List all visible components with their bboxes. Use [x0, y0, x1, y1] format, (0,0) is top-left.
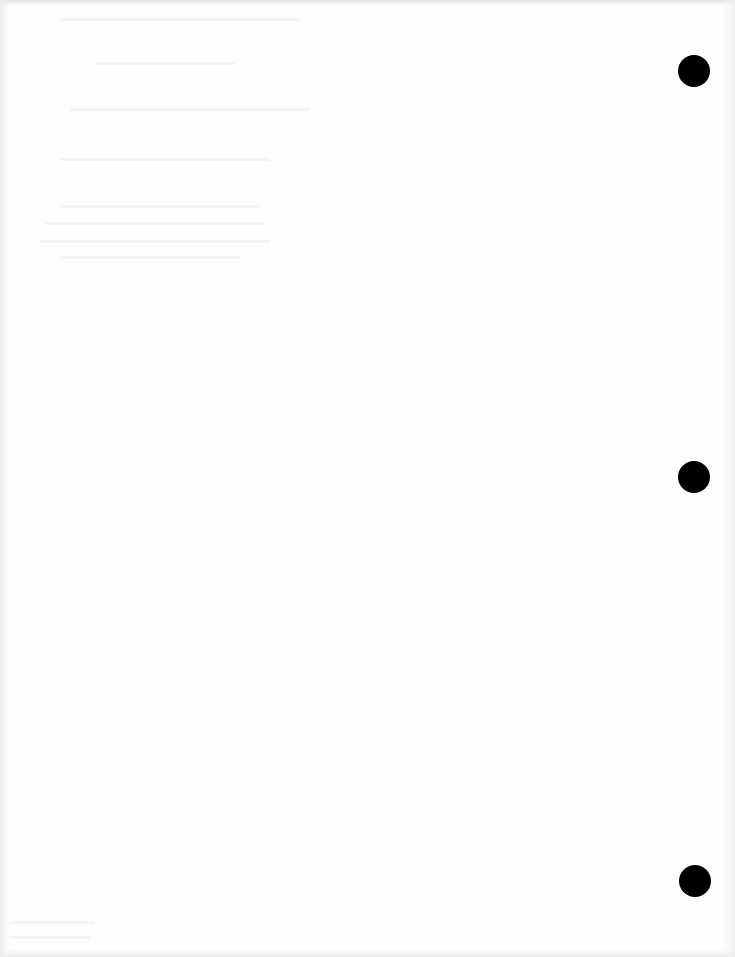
- top-edge-shadow: [0, 0, 735, 6]
- punch-hole-bottom: [679, 865, 711, 897]
- left-edge-shadow: [0, 0, 10, 957]
- scanned-page: [0, 0, 735, 957]
- punch-hole-middle: [678, 461, 710, 493]
- punch-hole-top: [678, 55, 710, 87]
- bottom-edge-shadow: [0, 949, 735, 957]
- right-edge-shadow: [723, 0, 735, 957]
